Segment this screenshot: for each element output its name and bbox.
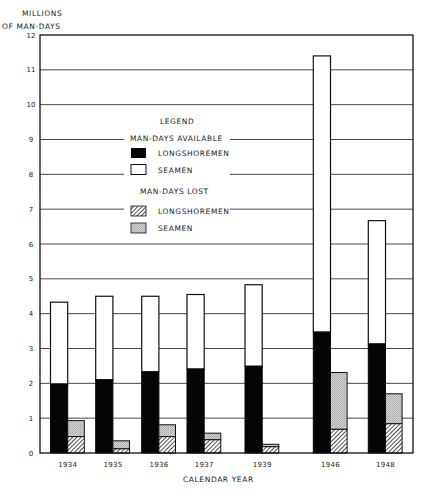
- y-tick-label: 4: [29, 310, 34, 318]
- legend-swatch-lost-longshoremen: [131, 206, 146, 216]
- legend-swatch-available-longshoremen: [131, 148, 146, 158]
- y-axis-title: MILLIONS OF MAN-DAYS: [2, 9, 62, 31]
- bar-lost-seamen: [68, 421, 85, 437]
- bar-available-longshoremen: [142, 372, 159, 453]
- y-axis-title-line2: OF MAN-DAYS: [2, 22, 61, 31]
- bar-group-1939: [245, 285, 279, 453]
- legend-label-lost-longshoremen: LONGSHOREMEN: [158, 207, 230, 216]
- x-tick-label: 1939: [253, 461, 272, 469]
- bar-available-longshoremen: [187, 369, 204, 453]
- y-tick-label: 11: [27, 66, 36, 74]
- bar-available-seamen: [96, 296, 113, 380]
- bar-lost-seamen: [204, 433, 221, 440]
- bar-available-seamen: [51, 302, 68, 384]
- x-tick-label: 1948: [376, 461, 395, 469]
- bar-lost-longshoremen: [68, 437, 85, 453]
- bar-available-seamen: [313, 56, 330, 332]
- bar-lost-seamen: [113, 441, 130, 449]
- y-axis-title-line1: MILLIONS: [22, 9, 62, 18]
- legend-swatch-lost-seamen: [131, 223, 146, 233]
- bar-available-longshoremen: [245, 366, 262, 453]
- legend-label-lost-seamen: SEAMEN: [158, 224, 193, 233]
- x-tick-label: 1946: [321, 461, 340, 469]
- y-tick-label: 6: [29, 241, 34, 249]
- y-tick-label: 10: [27, 101, 36, 109]
- bar-group-1936: [142, 296, 176, 453]
- bar-group-1946: [313, 56, 347, 453]
- x-axis-tick-labels: 1934193519361937193919461948: [58, 461, 395, 469]
- legend: LEGEND MAN-DAYS AVAILABLE LONGSHOREMEN S…: [124, 108, 230, 240]
- legend-heading-lost: MAN-DAYS LOST: [140, 187, 209, 196]
- bar-available-seamen: [187, 295, 204, 370]
- y-tick-label: 1: [29, 415, 33, 423]
- bar-available-longshoremen: [368, 344, 385, 453]
- bar-group-1948: [368, 221, 402, 453]
- bar-group-1934: [51, 302, 85, 453]
- x-tick-label: 1937: [195, 461, 214, 469]
- bar-available-seamen: [368, 221, 385, 344]
- y-tick-label: 12: [27, 32, 36, 40]
- bar-lost-longshoremen: [159, 437, 176, 453]
- x-tick-label: 1934: [58, 461, 77, 469]
- legend-swatch-available-seamen: [131, 165, 146, 175]
- y-tick-label: 0: [29, 450, 33, 458]
- bar-lost-longshoremen: [386, 424, 403, 453]
- bar-lost-seamen: [159, 425, 176, 437]
- legend-heading-available: MAN-DAYS AVAILABLE: [130, 134, 223, 143]
- bar-lost-longshoremen: [262, 447, 279, 453]
- y-tick-label: 8: [29, 171, 33, 179]
- bar-available-longshoremen: [313, 332, 330, 453]
- bar-available-longshoremen: [96, 380, 113, 453]
- legend-label-available-longshoremen: LONGSHOREMEN: [158, 149, 230, 158]
- legend-title: LEGEND: [160, 117, 194, 126]
- y-axis-ticks: 0123456789101112: [27, 32, 36, 458]
- y-tick-label: 3: [29, 345, 33, 353]
- bar-available-seamen: [142, 296, 159, 372]
- x-axis-title: CALENDAR YEAR: [183, 475, 254, 484]
- y-tick-label: 2: [29, 380, 33, 388]
- y-tick-label: 9: [29, 136, 33, 144]
- bar-lost-longshoremen: [331, 429, 348, 453]
- bar-group-1935: [96, 296, 130, 453]
- bar-group-1937: [187, 295, 221, 453]
- legend-label-available-seamen: SEAMEN: [158, 166, 193, 175]
- x-tick-label: 1936: [149, 461, 168, 469]
- bar-lost-seamen: [386, 394, 403, 424]
- y-tick-label: 5: [29, 275, 33, 283]
- bar-lost-longshoremen: [204, 440, 221, 453]
- y-tick-label: 7: [29, 206, 33, 214]
- bar-lost-seamen: [331, 373, 348, 430]
- x-tick-label: 1935: [103, 461, 122, 469]
- bar-available-seamen: [245, 285, 262, 367]
- bar-available-longshoremen: [51, 384, 68, 453]
- bar-chart: MILLIONS OF MAN-DAYS 0123456789101112 LE…: [0, 0, 424, 493]
